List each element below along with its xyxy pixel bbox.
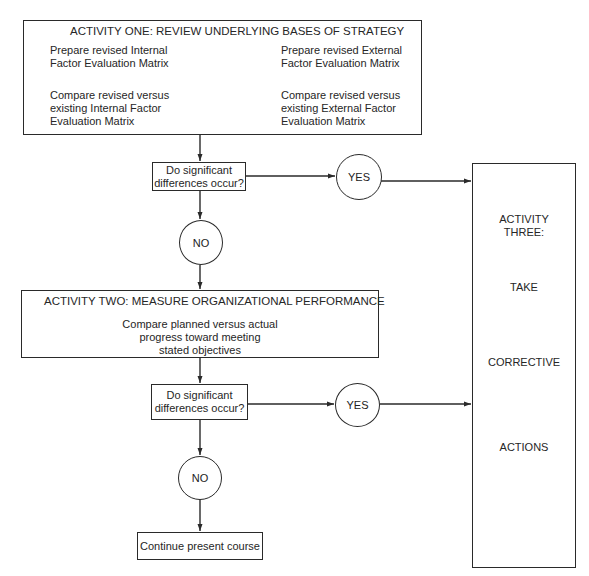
yes-two-label: YES <box>346 399 368 411</box>
no-two-label: NO <box>192 472 209 484</box>
activity-one-box: ACTIVITY ONE: REVIEW UNDERLYING BASES OF… <box>23 20 422 135</box>
activity-three-corrective: CORRECTIVE <box>473 356 575 369</box>
decision-two-box: Do significant differences occur? <box>151 384 248 420</box>
activity-three-actions: ACTIONS <box>473 441 575 454</box>
decision-one-text: Do significant differences occur? <box>153 164 245 190</box>
activity-one-title: ACTIVITY ONE: REVIEW UNDERLYING BASES OF… <box>70 25 404 38</box>
continue-label: Continue present course <box>138 540 262 553</box>
continue-present-course-box: Continue present course <box>137 532 263 560</box>
compare-internal-text: Compare revised versus existing Internal… <box>50 89 169 128</box>
compare-external-text: Compare revised versus existing External… <box>281 89 400 128</box>
activity-two-box: ACTIVITY TWO: MEASURE ORGANIZATIONAL PER… <box>21 290 379 358</box>
activity-three-box: ACTIVITY THREE: TAKE CORRECTIVE ACTIONS <box>472 163 576 568</box>
yes-two-circle: YES <box>335 383 380 427</box>
prepare-internal-text: Prepare revised Internal Factor Evaluati… <box>50 44 169 70</box>
activity-two-body: Compare planned versus actual progress t… <box>22 318 378 357</box>
yes-one-label: YES <box>348 171 370 183</box>
no-two-circle: NO <box>178 456 222 500</box>
no-one-circle: NO <box>179 220 223 265</box>
decision-two-text: Do significant differences occur? <box>152 389 247 415</box>
activity-three-take: TAKE <box>473 281 575 294</box>
decision-one-box: Do significant differences occur? <box>152 162 246 191</box>
activity-two-title: ACTIVITY TWO: MEASURE ORGANIZATIONAL PER… <box>44 295 385 308</box>
yes-one-circle: YES <box>336 154 382 200</box>
activity-three-heading: ACTIVITY THREE: <box>473 213 575 239</box>
prepare-external-text: Prepare revised External Factor Evaluati… <box>281 44 402 70</box>
no-one-label: NO <box>193 237 210 249</box>
